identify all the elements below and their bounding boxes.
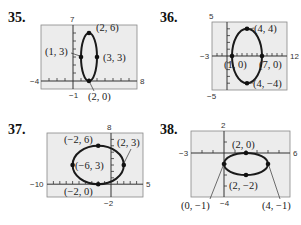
graph-36-point-top	[245, 27, 250, 32]
graph-38: 2 −4 −3 6 (2, 0) (2, −2) (0, −1) (4, −1)	[179, 121, 298, 212]
graph-36-label-right: (7, 0)	[259, 59, 282, 71]
graph-35-label-top: (2, 6)	[96, 22, 119, 34]
graph-35-label-right: (3, 3)	[103, 52, 126, 64]
graphs-canvas: 7 −1 −4 8 (2, 6) (1, 3) (3, 3) (2, 0)	[0, 0, 301, 225]
graph-36-xmax-label: 12	[290, 52, 299, 61]
graph-36: 5 −5 −3 12 (4, 4) (1, 0) (7, 0) (4, −4)	[200, 12, 299, 101]
graph-35-point-left	[79, 55, 84, 60]
graph-38-label-right: (4, −1)	[262, 200, 291, 212]
graph-38-label-top: (2, 0)	[232, 139, 255, 151]
graph-36-ymax-label: 5	[209, 12, 214, 21]
graph-35-label-left: (1, 3)	[45, 46, 68, 58]
graph-35: 7 −1 −4 8 (2, 6) (1, 3) (3, 3) (2, 0)	[30, 15, 145, 103]
graph-38-point-top	[244, 151, 249, 156]
graph-38-xmax-label: 6	[293, 149, 298, 158]
graph-35-ymax-label: 7	[70, 15, 75, 24]
graph-37-label-bottom: (−2, 0)	[64, 186, 93, 198]
graph-35-ymin-label: −1	[69, 91, 79, 100]
graph-37-label-right: (2, 3)	[117, 137, 140, 149]
graph-37-point-top	[96, 144, 101, 149]
graph-37-ymax-label: 8	[107, 123, 112, 132]
graph-36-ymin-label: −5	[207, 92, 217, 101]
graph-38-point-left	[222, 162, 227, 167]
graph-38-label-left: (0, −1)	[181, 200, 210, 212]
graph-35-point-top	[87, 31, 92, 36]
graph-35-point-right	[95, 55, 100, 60]
graph-36-label-top: (4, 4)	[254, 23, 277, 35]
graph-36-label-bottom: (4, −4)	[253, 78, 282, 90]
graph-37: 8 −2 −10 5 (−2, 6) (−6, 3) (2, 3) (−2, 0…	[30, 123, 151, 208]
graph-36-point-bottom	[245, 81, 250, 86]
graph-38-ymin-label: −4	[220, 199, 230, 208]
graph-35-label-bottom: (2, 0)	[88, 91, 111, 103]
graph-36-xmin-label: −3	[200, 52, 210, 61]
graph-37-label-top: (−2, 6)	[64, 134, 93, 146]
graph-35-point-bottom	[87, 79, 92, 84]
graph-38-ymax-label: 2	[221, 121, 226, 130]
graph-36-point-right	[260, 54, 265, 59]
graph-37-xmax-label: 5	[146, 180, 151, 189]
graph-38-point-right	[266, 162, 271, 167]
graph-37-label-left: (−6, 3)	[75, 160, 104, 172]
graph-35-xmax-label: 8	[140, 77, 145, 86]
graph-38-label-bottom: (2, −2)	[229, 180, 258, 192]
graph-35-xmin-label: −4	[30, 77, 40, 86]
graph-38-point-bottom	[244, 173, 249, 178]
graph-37-xmin-label: −10	[30, 180, 44, 189]
graph-36-label-left: (1, 0)	[224, 59, 247, 71]
graph-37-point-right	[122, 163, 127, 168]
graph-38-xmin-label: −3	[179, 149, 189, 158]
graph-36-point-left	[230, 54, 235, 59]
graph-37-point-bottom	[96, 182, 101, 187]
graph-37-ymin-label: −2	[104, 199, 114, 208]
